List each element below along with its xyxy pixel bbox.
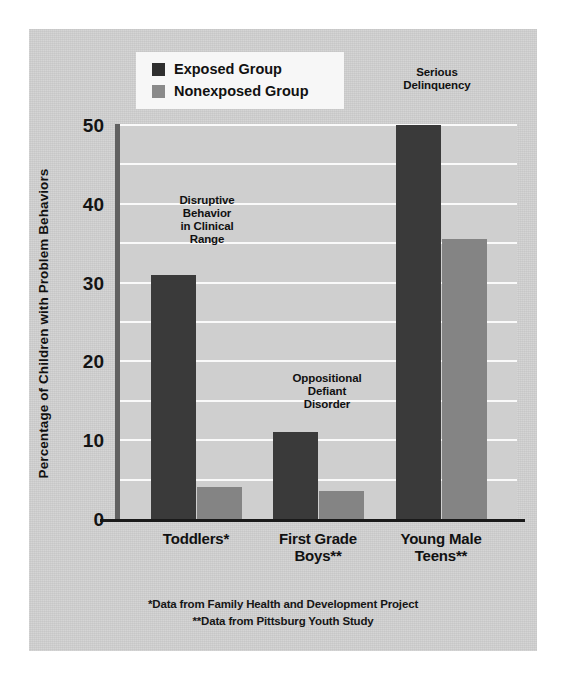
legend-label-nonexposed: Nonexposed Group: [174, 83, 309, 99]
footnotes: *Data from Family Health and Development…: [0, 596, 566, 629]
annotation-line: Oppositional: [268, 372, 386, 385]
plot-area: [118, 125, 517, 519]
bar-exposed-1[interactable]: [273, 432, 318, 519]
annotation-line: in Clinical: [152, 220, 262, 233]
annotation-line: Behavior: [152, 207, 262, 220]
y-tick-label-50: 50: [60, 116, 104, 135]
legend-swatch-nonexposed-icon: [152, 85, 165, 98]
category-label-line: Young Male: [366, 530, 516, 547]
bar-exposed-2[interactable]: [396, 125, 441, 519]
y-tick-label-30: 30: [60, 274, 104, 293]
annotation-line: Serious: [372, 66, 502, 79]
annotation-1: OppositionalDefiantDisorder: [268, 372, 386, 411]
y-tick-label-0: 0: [60, 510, 104, 529]
annotation-line: Defiant: [268, 385, 386, 398]
legend-label-exposed: Exposed Group: [174, 61, 282, 77]
footnote-2: **Data from Pittsburg Youth Study: [0, 613, 566, 630]
y-tick-label-20: 20: [60, 352, 104, 371]
bar-nonexposed-0[interactable]: [197, 487, 242, 519]
y-tick-label-10: 10: [60, 431, 104, 450]
legend-item-exposed[interactable]: Exposed Group: [136, 58, 344, 80]
category-label-line: Teens**: [366, 547, 516, 564]
bar-nonexposed-1[interactable]: [319, 491, 364, 519]
y-tick-label-40: 40: [60, 195, 104, 214]
legend-item-nonexposed[interactable]: Nonexposed Group: [136, 80, 344, 102]
chart-legend: Exposed Group Nonexposed Group: [136, 52, 344, 109]
chart-figure: Percentage of Children with Problem Beha…: [0, 0, 566, 673]
gridline-45: [118, 163, 517, 165]
annotation-line: Disruptive: [152, 194, 262, 207]
annotation-2: SeriousDelinquency: [372, 66, 502, 92]
bar-nonexposed-2[interactable]: [442, 239, 487, 519]
annotation-0: DisruptiveBehaviorin ClinicalRange: [152, 194, 262, 246]
y-axis-line: [115, 124, 120, 520]
gridline-50: [118, 124, 517, 126]
annotation-line: Range: [152, 233, 262, 246]
bar-exposed-0[interactable]: [151, 275, 196, 519]
legend-swatch-exposed-icon: [152, 63, 165, 76]
footnote-1: *Data from Family Health and Development…: [0, 596, 566, 613]
y-axis-title: Percentage of Children with Problem Beha…: [36, 129, 51, 519]
annotation-line: Delinquency: [372, 79, 502, 92]
x-axis-line: [100, 519, 525, 522]
annotation-line: Disorder: [268, 398, 386, 411]
category-label-2: Young MaleTeens**: [366, 530, 516, 565]
